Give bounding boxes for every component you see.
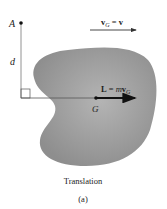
translation-diagram: A d vG = v G L = mvG Translation (a)	[0, 0, 167, 209]
center-of-mass-label: G	[92, 104, 99, 114]
sublabel: (a)	[78, 194, 88, 204]
right-angle-marker	[21, 89, 30, 98]
point-a-dot	[19, 21, 23, 25]
velocity-label: vG = v	[101, 17, 124, 28]
caption: Translation	[64, 176, 103, 186]
point-a-label: A	[8, 18, 16, 29]
distance-label: d	[10, 56, 16, 67]
